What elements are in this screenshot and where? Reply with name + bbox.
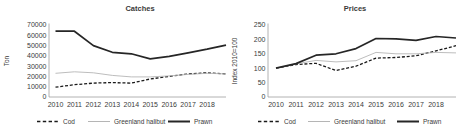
legend-label-cod: Cod [284,118,296,125]
legend-label-prawn: Prawn [423,118,442,125]
y-tick-label: 60000 [27,32,47,39]
chart-title: Prices [344,4,367,13]
series-line-prawn [56,31,227,59]
x-tick-label: 2013 [105,101,121,108]
x-tick-label: 2016 [388,101,404,108]
x-tick-label: 2012 [308,101,324,108]
y-axis-label: Index 2010=100 [231,37,238,84]
y-tick-label: 30000 [27,63,47,70]
y-tick-label: 0 [262,93,266,100]
x-tick-label: 2011 [288,101,303,108]
y-tick-label: 100 [254,65,266,72]
x-tick-label: 2012 [86,101,102,108]
x-tick-label: 2018 [199,101,215,108]
y-tick-label: 250 [254,21,266,28]
x-tick-label: 2015 [368,101,384,108]
y-tick-label: 50000 [27,42,47,49]
y-tick-label: 10000 [27,83,47,90]
y-tick-label: 150 [254,50,266,57]
y-axis-label: Ton [3,55,10,66]
y-tick-label: 50 [258,79,266,86]
x-tick-label: 2016 [161,101,177,108]
axis-line [49,24,226,98]
legend-label-prawn: Prawn [194,118,213,125]
x-tick-label: 2013 [328,101,344,108]
series-line-cod [276,46,456,71]
figure-canvas: CatchesTon010000200003000040000500006000… [0,0,460,137]
chart-title: Catches [125,4,154,13]
x-tick-label: 2014 [348,101,364,108]
y-tick-label: 0 [43,93,47,100]
y-tick-label: 40000 [27,52,47,59]
x-tick-label: 2015 [142,101,158,108]
catches-chart-svg: CatchesTon010000200003000040000500006000… [0,0,230,137]
series-line-cod [56,73,227,87]
y-tick-label: 20000 [27,73,47,80]
x-tick-label: 2018 [428,101,444,108]
prices-chart: PricesIndex 2010=10005010015020025020102… [230,0,460,137]
x-tick-label: 2010 [48,101,64,108]
x-tick-label: 2011 [67,101,82,108]
series-line-prawn [276,37,456,69]
legend-label-greenland-halibut: Greenland halibut [334,118,386,125]
x-tick-label: 2010 [268,101,284,108]
y-tick-label: 70000 [27,21,47,28]
legend-label-greenland-halibut: Greenland halibut [114,118,166,125]
catches-chart: CatchesTon010000200003000040000500006000… [0,0,230,137]
y-tick-label: 200 [254,36,266,43]
x-tick-label: 2017 [408,101,424,108]
prices-chart-svg: PricesIndex 2010=10005010015020025020102… [230,0,460,137]
legend-label-cod: Cod [63,118,75,125]
axis-line [268,24,456,98]
x-tick-label: 2014 [123,101,139,108]
x-tick-label: 2017 [180,101,196,108]
